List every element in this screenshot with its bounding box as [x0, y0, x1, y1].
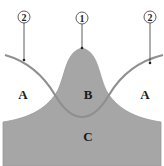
callout-left-label: 2	[22, 12, 27, 23]
callout-right-label: 2	[148, 12, 153, 23]
callout-left: 2	[18, 11, 30, 23]
region-label-a-right: A	[140, 87, 150, 102]
leader-dot-left	[23, 59, 26, 62]
phase-diagram: 2 1 2 A B A C	[0, 0, 164, 166]
callout-right: 2	[144, 11, 156, 23]
region-label-b: B	[84, 87, 93, 102]
leader-dot-center	[81, 47, 84, 50]
callout-center: 1	[76, 12, 88, 24]
region-label-a-left: A	[18, 87, 28, 102]
region-label-c: C	[83, 129, 92, 144]
leader-dot-right	[149, 62, 152, 65]
callout-center-label: 1	[80, 13, 85, 24]
